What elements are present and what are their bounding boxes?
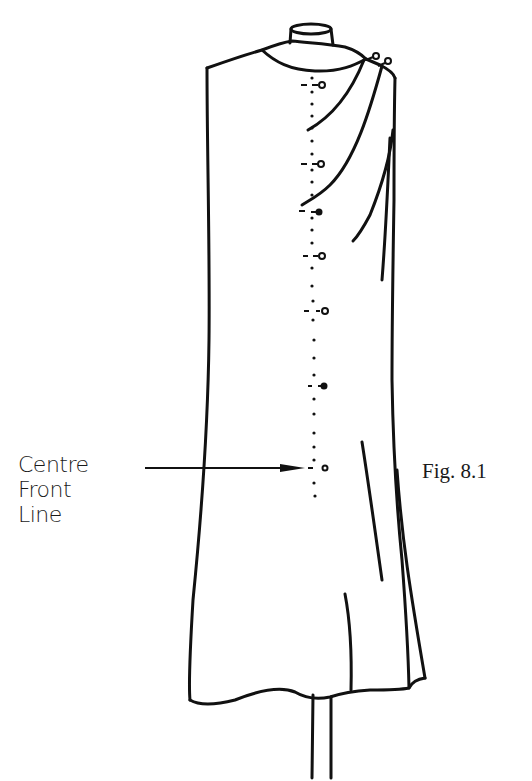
dress-right-edge <box>392 78 409 688</box>
annotation-line-line: Line <box>18 502 89 527</box>
drape-fold-2 <box>302 66 382 205</box>
dress-left-edge <box>190 68 210 700</box>
centre-front-pins <box>299 82 328 471</box>
stand-pole-left <box>312 695 313 778</box>
centre-front-dotted-line <box>310 76 316 497</box>
annotation-line-centre: Centre <box>18 452 89 477</box>
drape-fold-4 <box>382 138 390 280</box>
dress-hem <box>190 678 425 704</box>
front-inner-line <box>362 442 382 580</box>
neckline <box>262 50 366 71</box>
drape-flare <box>397 470 425 678</box>
hem-pleat <box>345 594 351 690</box>
dress-illustration <box>0 0 532 781</box>
centre-front-arrow <box>145 464 313 472</box>
annotation-label: Centre Front Line <box>18 452 89 527</box>
annotation-line-front: Front <box>18 477 89 502</box>
figure-caption: Fig. 8.1 <box>422 459 487 484</box>
